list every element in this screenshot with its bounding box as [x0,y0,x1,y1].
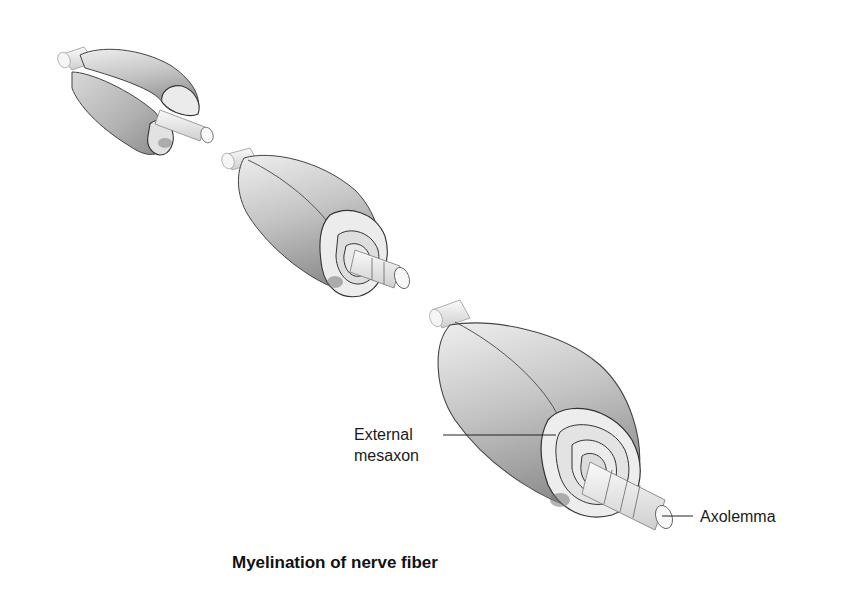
stage-2-nucleus [327,276,343,288]
label-external-mesaxon-line2: mesaxon [354,445,419,466]
label-axolemma: Axolemma [700,506,776,527]
label-external-mesaxon: External mesaxon [354,424,419,466]
stage-2-schwann-cell [220,148,413,297]
label-external-mesaxon-line1: External [354,424,419,445]
stage-3-myelin-sheath [427,300,675,531]
stage-1-schwann-cell [56,47,216,155]
myelination-diagram [0,0,856,590]
stage-3-nucleus [550,493,570,507]
stage-1-nucleus [158,138,172,148]
diagram-caption: Myelination of nerve fiber [232,553,438,573]
